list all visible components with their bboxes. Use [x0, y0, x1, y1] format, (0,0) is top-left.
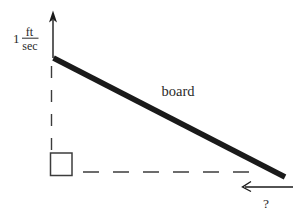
- board-sliding-diagram: 1 ft sec board ?: [0, 0, 299, 213]
- vertical-velocity-arrow: [49, 11, 57, 59]
- rate-denominator: sec: [22, 39, 37, 53]
- board-line: [54, 58, 286, 177]
- rate-label: 1 ft sec: [13, 25, 39, 54]
- board-label: board: [161, 83, 195, 99]
- rate-numerator: ft: [26, 25, 34, 39]
- unknown-rate-label: ?: [263, 196, 269, 211]
- right-angle-marker: [51, 153, 73, 176]
- diagram-canvas: 1 ft sec board ?: [0, 0, 299, 213]
- rate-coefficient: 1: [13, 31, 20, 46]
- horizontal-rate-arrow: [243, 182, 294, 192]
